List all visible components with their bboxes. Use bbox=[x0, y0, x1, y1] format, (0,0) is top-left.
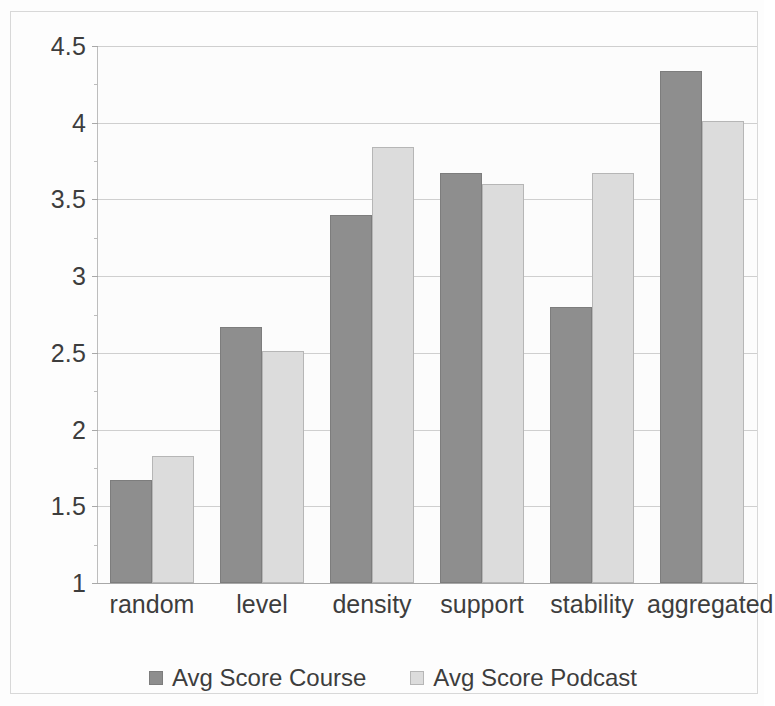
bar-aggregated-course bbox=[660, 71, 702, 583]
y-tick-label-1.5: 1.5 bbox=[51, 492, 86, 521]
x-tick-label-stability: stability bbox=[537, 590, 647, 619]
bar-aggregated-podcast bbox=[702, 121, 744, 583]
gridline-1 bbox=[98, 583, 757, 584]
bar-group-random bbox=[98, 46, 208, 583]
bars-layer bbox=[98, 46, 757, 583]
bar-group-support bbox=[428, 46, 538, 583]
bar-group-level bbox=[208, 46, 318, 583]
y-tick-label-3.5: 3.5 bbox=[51, 185, 86, 214]
bar-stability-podcast bbox=[592, 173, 634, 583]
bar-random-podcast bbox=[152, 456, 194, 583]
bar-density-course bbox=[330, 215, 372, 583]
chart-legend: Avg Score CourseAvg Score Podcast bbox=[11, 664, 775, 692]
x-axis-tick-labels: randomleveldensitysupportstabilityaggreg… bbox=[97, 590, 757, 630]
bar-support-course bbox=[440, 173, 482, 583]
y-tick-label-4: 4 bbox=[72, 108, 86, 137]
legend-swatch-icon bbox=[410, 671, 424, 685]
chart-frame: 11.522.533.544.5 randomleveldensitysuppo… bbox=[10, 11, 758, 694]
bar-group-aggregated bbox=[648, 46, 758, 583]
x-tick-label-level: level bbox=[207, 590, 317, 619]
legend-entry-course: Avg Score Course bbox=[149, 664, 366, 692]
bar-group-density bbox=[318, 46, 428, 583]
bar-level-course bbox=[220, 327, 262, 583]
legend-swatch-icon bbox=[149, 671, 163, 685]
bar-density-podcast bbox=[372, 147, 414, 583]
x-tick-label-density: density bbox=[317, 590, 427, 619]
y-tick-label-1: 1 bbox=[72, 569, 86, 598]
y-tick-label-3: 3 bbox=[72, 262, 86, 291]
y-tick-label-2: 2 bbox=[72, 415, 86, 444]
bar-support-podcast bbox=[482, 184, 524, 583]
bar-level-podcast bbox=[262, 351, 304, 583]
y-tick-label-2.5: 2.5 bbox=[51, 338, 86, 367]
x-tick-label-support: support bbox=[427, 590, 537, 619]
plot-area: 11.522.533.544.5 bbox=[97, 46, 757, 583]
legend-label: Avg Score Course bbox=[172, 664, 366, 692]
legend-label: Avg Score Podcast bbox=[433, 664, 637, 692]
legend-entry-podcast: Avg Score Podcast bbox=[410, 664, 637, 692]
bar-stability-course bbox=[550, 307, 592, 583]
y-tick-mark bbox=[92, 583, 98, 584]
bar-random-course bbox=[110, 480, 152, 583]
bar-group-stability bbox=[538, 46, 648, 583]
x-tick-label-aggregated: aggregated bbox=[647, 590, 757, 619]
x-tick-label-random: random bbox=[97, 590, 207, 619]
y-tick-label-4.5: 4.5 bbox=[51, 32, 86, 61]
